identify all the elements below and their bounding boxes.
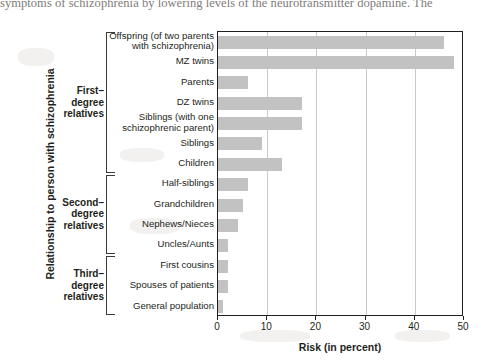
x-tick-mark (266, 316, 267, 320)
x-tick-label: 50 (448, 321, 478, 332)
bar (218, 260, 228, 273)
gridline-40 (415, 32, 416, 315)
category-label: Parents (90, 77, 214, 88)
category-label: DZ twins (90, 97, 214, 108)
category-label: General population (90, 301, 214, 312)
category-label: MZ twins (90, 56, 214, 67)
category-label-line: Parents (90, 77, 214, 88)
category-label: Nephews/Nieces (90, 219, 214, 230)
x-tick-label: 20 (300, 321, 330, 332)
x-tick-label: 40 (399, 321, 429, 332)
x-tick-label: 30 (350, 321, 380, 332)
category-label-line: Grandchildren (90, 199, 214, 210)
category-label-line: Siblings (with one (90, 112, 214, 123)
x-tick-mark (414, 316, 415, 320)
x-tick-mark (315, 316, 316, 320)
bar (218, 76, 248, 89)
gridline-10 (267, 32, 268, 315)
category-label: Offspring (of two parentswith schizophre… (90, 31, 214, 52)
category-label-line: Spouses of patients (90, 280, 214, 291)
category-label: Spouses of patients (90, 280, 214, 291)
x-axis-title: Risk (in percent) (217, 341, 463, 353)
category-label-line: with schizophrenia) (90, 41, 214, 52)
category-label-line: Children (90, 158, 214, 169)
category-label-line: General population (90, 301, 214, 312)
category-label-line: DZ twins (90, 97, 214, 108)
category-label: Uncles/Aunts (90, 239, 214, 250)
gridline-30 (366, 32, 367, 315)
bar (218, 158, 282, 171)
x-tick-label: 0 (202, 321, 232, 332)
category-label-list: Offspring (of two parentswith schizophre… (90, 0, 214, 363)
bar (218, 178, 248, 191)
bar (218, 137, 262, 150)
category-label-line: First cousins (90, 260, 214, 271)
bar (218, 97, 302, 110)
x-tick-mark (365, 316, 366, 320)
bar (218, 56, 454, 69)
category-label-line: Siblings (90, 138, 214, 149)
plot-area (217, 31, 463, 316)
bar (218, 239, 228, 252)
x-tick-mark (217, 316, 218, 320)
category-label-line: schizophrenic parent) (90, 123, 214, 134)
category-label: Siblings (with oneschizophrenic parent) (90, 112, 214, 133)
x-tick-label: 10 (251, 321, 281, 332)
bar (218, 199, 243, 212)
bar (218, 117, 302, 130)
category-label-line: Uncles/Aunts (90, 239, 214, 250)
bar (218, 300, 223, 313)
schizophrenia-risk-chart: Relationship to person with schizophreni… (0, 0, 481, 363)
bar (218, 219, 238, 232)
bar (218, 280, 228, 293)
category-label-line: Nephews/Nieces (90, 219, 214, 230)
category-label: Grandchildren (90, 199, 214, 210)
category-label: Half-siblings (90, 178, 214, 189)
category-label: Children (90, 158, 214, 169)
category-label: Siblings (90, 138, 214, 149)
gridline-20 (316, 32, 317, 315)
category-label-line: Half-siblings (90, 178, 214, 189)
category-label: First cousins (90, 260, 214, 271)
category-label-line: MZ twins (90, 56, 214, 67)
x-tick-mark (463, 316, 464, 320)
bar (218, 36, 444, 49)
